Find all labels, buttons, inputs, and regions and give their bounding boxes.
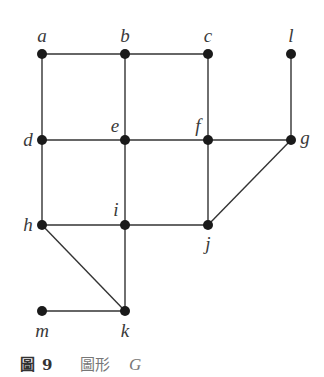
node-label-c: c: [204, 25, 213, 46]
node-label-b: b: [120, 25, 130, 46]
node-b: [120, 49, 130, 59]
caption-symbol: G: [129, 355, 141, 374]
figure-caption: 圖 9 圖形 G: [20, 355, 141, 374]
node-g: [286, 135, 296, 145]
node-label-j: j: [202, 233, 210, 254]
caption-prefix: 圖: [20, 356, 35, 374]
node-h: [37, 220, 47, 230]
node-label-l: l: [288, 25, 293, 46]
node-m: [37, 306, 47, 316]
node-e: [120, 135, 130, 145]
node-label-e: e: [111, 115, 119, 136]
node-f: [203, 135, 213, 145]
node-label-d: d: [23, 129, 33, 150]
graph-nodes: [37, 49, 296, 316]
node-k: [120, 306, 130, 316]
caption-number: 9: [42, 356, 52, 374]
node-l: [286, 49, 296, 59]
node-label-i: i: [113, 199, 118, 220]
node-label-m: m: [35, 320, 49, 341]
node-label-h: h: [23, 214, 33, 235]
node-label-g: g: [300, 127, 310, 148]
graph-edges: [42, 54, 291, 311]
node-label-a: a: [37, 25, 47, 46]
graph-node-labels: abcldefghijmk: [23, 25, 310, 341]
graph-figure: abcldefghijmk 圖 9 圖形 G: [0, 0, 324, 377]
node-i: [120, 220, 130, 230]
node-label-k: k: [121, 320, 130, 341]
caption-title: 圖形: [80, 356, 110, 374]
node-j: [203, 220, 213, 230]
node-a: [37, 49, 47, 59]
edge-g-j: [208, 140, 291, 225]
node-c: [203, 49, 213, 59]
node-label-f: f: [195, 115, 203, 136]
node-d: [37, 135, 47, 145]
edge-h-k: [42, 225, 125, 311]
